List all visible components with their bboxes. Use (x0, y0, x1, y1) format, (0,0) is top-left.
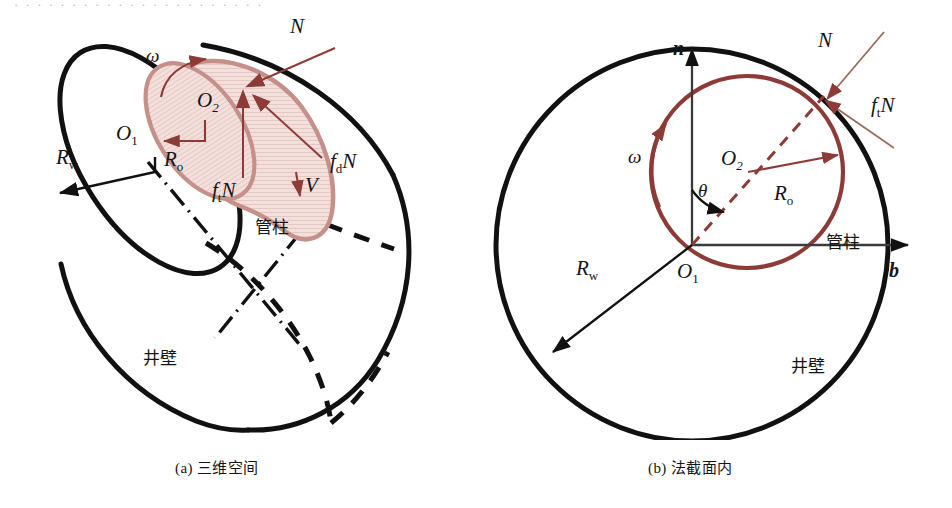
N-normal-force-arrow (828, 32, 884, 98)
O1-label: O1 (677, 259, 699, 286)
N-normal-force-arrow (248, 48, 335, 86)
Rw-radius-arrow (553, 245, 692, 352)
fdN-label: fdN (330, 149, 357, 176)
borehole-wall-label-cjk: 井壁 (143, 348, 177, 368)
caption-row: (a) 三维空间 (b) 法截面内 (0, 440, 952, 508)
panel-b-normal-cross-section: n b θ ω O1 (476, 0, 952, 440)
b-axis-label: b (889, 259, 899, 281)
pipe-string-label-cjk: 管柱 (255, 217, 289, 237)
theta-label: θ (698, 180, 707, 201)
n-axis-label: n (673, 37, 684, 59)
ftN-label: ftN (871, 93, 895, 120)
Rw-label: Rw (575, 256, 599, 283)
pipe-string-circle (651, 76, 843, 268)
ftN-label: ftN (212, 178, 236, 205)
caption-panel-a: (a) 三维空间 (175, 456, 259, 477)
Ro-radius-arrow (748, 155, 838, 172)
V-label: V (305, 173, 320, 197)
O2-label: O2 (721, 146, 743, 173)
pipe-string-label-cjk: 管柱 (826, 232, 860, 252)
omega-label: ω (146, 45, 159, 66)
Ro-label: Ro (773, 181, 793, 208)
omega-label: ω (628, 146, 641, 167)
N-label: N (289, 14, 305, 38)
panel-a-three-dimensional-space: ω O2 Ro Rw O1 (0, 0, 476, 440)
caption-panel-b: (b) 法截面内 (648, 456, 732, 477)
N-label: N (817, 28, 833, 52)
Rw-label: Rw (55, 145, 79, 172)
theta-angle-arc (692, 190, 724, 212)
borehole-wall-label-cjk: 井壁 (791, 356, 825, 376)
O1-label: O1 (116, 121, 138, 148)
figure-root: · · · · · · · · · · · · · · · · · · · · … (0, 0, 952, 508)
